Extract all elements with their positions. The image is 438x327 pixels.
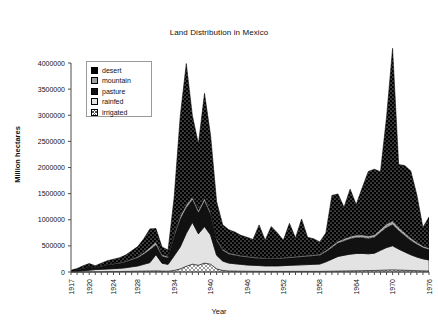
legend-label-irrigated: irrigated	[102, 108, 127, 117]
legend-item-pasture: pasture	[91, 86, 147, 96]
y-tick-label: 0	[61, 269, 65, 276]
desert-swatch-icon	[91, 67, 98, 74]
x-tick-label: 1946	[244, 279, 251, 295]
x-tick-label: 1928	[134, 279, 141, 295]
legend-item-desert: desert	[91, 65, 147, 75]
y-tick-label: 2500000	[38, 138, 65, 145]
x-tick-label: 1917	[68, 279, 75, 295]
chart-plot-area: 4000000350000030000002500000200000015000…	[0, 0, 438, 327]
chart-legend: desert mountain pasture rainfed irrigate…	[86, 61, 152, 117]
irrigated-swatch-icon	[91, 109, 98, 116]
legend-label-desert: desert	[102, 66, 121, 75]
x-tick-label: 1970	[389, 279, 396, 295]
chart-container: Land Distribution in Mexico Million hect…	[0, 0, 438, 327]
mountain-swatch-icon	[91, 77, 98, 84]
legend-label-pasture: pasture	[102, 87, 125, 96]
x-tick-label: 1920	[86, 279, 93, 295]
y-tick-label: 1000000	[38, 216, 65, 223]
legend-label-rainfed: rainfed	[102, 97, 123, 106]
y-tick-label: 3000000	[38, 112, 65, 119]
pasture-swatch-icon	[91, 88, 98, 95]
x-tick-label: 1976	[426, 279, 433, 295]
x-tick-label: 1924	[110, 279, 117, 295]
y-tick-label: 4000000	[38, 60, 65, 67]
legend-item-rainfed: rainfed	[91, 97, 147, 107]
y-tick-label: 500000	[42, 242, 65, 249]
y-tick-label: 1500000	[38, 190, 65, 197]
y-tick-label: 2000000	[38, 164, 65, 171]
x-tick-label: 1964	[353, 279, 360, 295]
legend-item-mountain: mountain	[91, 76, 147, 86]
y-tick-label: 3500000	[38, 86, 65, 93]
x-tick-label: 1934	[171, 279, 178, 295]
x-tick-label: 1952	[280, 279, 287, 295]
x-tick-label: 1958	[316, 279, 323, 295]
x-tick-label: 1940	[207, 279, 214, 295]
legend-item-irrigated: irrigated	[91, 107, 147, 117]
legend-label-mountain: mountain	[102, 76, 131, 85]
rainfed-swatch-icon	[91, 98, 98, 105]
